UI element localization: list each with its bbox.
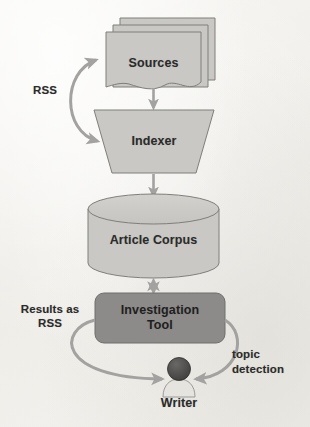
node-writer[interactable]	[163, 358, 195, 398]
architecture-diagram: Sources Indexer Article Corpus Investiga…	[0, 0, 310, 427]
sources-label: Sources	[106, 56, 201, 70]
indexer-label: Indexer	[104, 134, 204, 148]
topic-detection-label-line1: topic	[232, 348, 304, 361]
writer-body	[163, 379, 195, 397]
edge-rss-feedback	[71, 60, 97, 141]
investigation-tool-label-line1: Investigation	[95, 303, 225, 317]
node-sources[interactable]	[106, 18, 215, 89]
results-as-rss-label-line1: Results as	[8, 303, 92, 316]
article-corpus-label: Article Corpus	[88, 233, 219, 247]
cylinder-top	[88, 194, 219, 224]
writer-label: Writer	[129, 396, 229, 410]
writer-head	[168, 358, 191, 381]
investigation-tool-label-line2: Tool	[95, 318, 225, 332]
topic-detection-label-line2: detection	[232, 363, 304, 376]
results-as-rss-label-line2: RSS	[8, 317, 92, 330]
rss-edge-label: RSS	[19, 84, 71, 97]
